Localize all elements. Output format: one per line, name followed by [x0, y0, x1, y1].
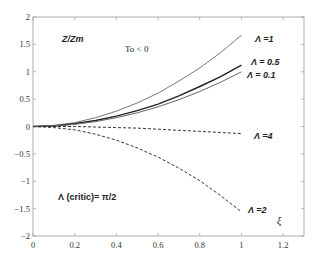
x-tick-label: 0.2	[69, 240, 80, 250]
line-chart: 00.20.40.60.811.221.510.50−0.5−1−1.5−2 Z…	[0, 0, 319, 260]
y-tick-label: 0	[26, 122, 30, 132]
y-tick-label: −1	[21, 176, 30, 186]
legend-lambda-2: Λ =2	[247, 205, 266, 215]
legend-lambda-0.1: Λ = 0.1	[246, 70, 275, 80]
x-tick-label: 0	[31, 240, 35, 250]
x-tick-label: 0.8	[194, 240, 205, 250]
y-tick-label: 1	[26, 67, 30, 77]
y-tick-label: 0.5	[19, 94, 30, 104]
legend-lambda-4: Λ =4	[253, 131, 272, 141]
y-tick-label: 2	[26, 12, 30, 22]
x-tick-label: 1.2	[278, 240, 289, 250]
x-tick-label: 1	[239, 240, 243, 250]
legend-lambda-1: Λ =1	[254, 34, 273, 44]
y-tick-label: −0.5	[15, 149, 30, 159]
x-tick-label: 0.4	[111, 240, 122, 250]
x-tick-label: 0.6	[153, 240, 164, 250]
condition-annotation: To < 0	[125, 44, 149, 54]
y-tick-label: −2	[21, 231, 30, 241]
x-axis-label: ξ	[277, 215, 282, 227]
y-tick-label: −1.5	[15, 204, 30, 214]
y-tick-label: 1.5	[19, 39, 30, 49]
legend-lambda-0.5: Λ = 0.5	[250, 57, 280, 67]
y-axis-label: Z/Zm	[61, 34, 84, 44]
critic-annotation: Λ (critic)= π/2	[58, 192, 116, 202]
